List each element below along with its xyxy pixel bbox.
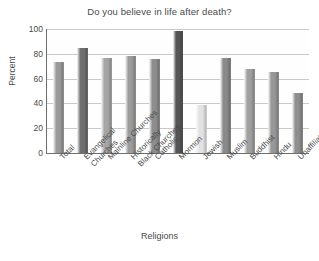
y-tick-label: 80 [34, 50, 43, 59]
x-axis-label: Religions [0, 231, 319, 241]
bar [292, 93, 303, 153]
y-tick-label: 100 [29, 25, 43, 34]
bar-slot [238, 29, 262, 153]
bar [77, 48, 88, 153]
bar-slot [261, 29, 285, 153]
bar-slot [71, 29, 95, 153]
y-tick-label: 20 [34, 124, 43, 133]
x-axis-tick-labels: TotalEvangelicalChurchesMainline Churche… [46, 155, 309, 227]
bar-slot [47, 29, 71, 153]
y-tick-label: 40 [34, 99, 43, 108]
y-tick-label: 60 [34, 74, 43, 83]
bar-slot [214, 29, 238, 153]
chart-title: Do you believe in life after death? [0, 6, 319, 17]
bar-slot [190, 29, 214, 153]
bar [220, 58, 231, 153]
y-axis-label: Percent [7, 41, 17, 101]
bar-slot [285, 29, 309, 153]
bar [53, 62, 64, 153]
y-tick-label: 0 [38, 149, 43, 158]
bar-chart: Do you believe in life after death? Perc… [0, 0, 319, 261]
